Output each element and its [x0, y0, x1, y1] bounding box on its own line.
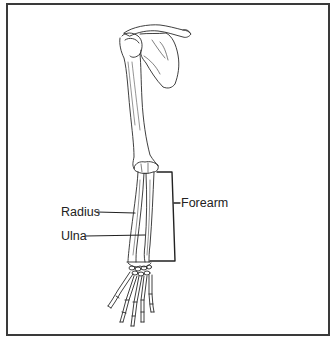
hand-bones: [108, 272, 154, 326]
ulna-label: Ulna: [61, 229, 87, 243]
humerus: [120, 33, 159, 174]
radius-leader-line: [97, 212, 135, 213]
clavicle: [124, 25, 191, 38]
arm-skeleton-illustration: [0, 0, 336, 341]
carpal-bones: [128, 263, 152, 276]
ulna-leader-line: [86, 235, 145, 236]
forearm-bones: [127, 172, 154, 262]
forearm-label: Forearm: [181, 196, 228, 210]
radius-label: Radius: [61, 205, 100, 219]
scapula: [140, 33, 179, 88]
